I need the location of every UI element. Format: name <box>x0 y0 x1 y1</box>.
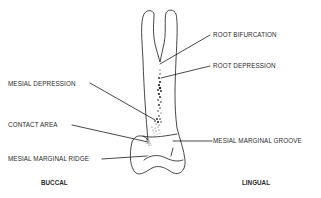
marginal-groove-mark <box>171 148 173 156</box>
cej-line <box>143 134 177 137</box>
label-buccal: BUCCAL <box>41 180 68 186</box>
tooth-illustration <box>0 0 321 198</box>
label-mesial-depression: MESIAL DEPRESSION <box>8 81 76 87</box>
label-contact-area: CONTACT AREA <box>8 122 58 128</box>
marginal-ridge-curve <box>144 156 183 162</box>
label-root-bifurcation: ROOT BIFURCATION <box>213 32 277 38</box>
stipple-contact-area <box>146 139 152 145</box>
label-mesial-marginal-ridge: MESIAL MARGINAL RIDGE <box>8 156 89 162</box>
label-mesial-marginal-groove: MESIAL MARGINAL GROOVE <box>213 138 302 144</box>
label-root-depression: ROOT DEPRESSION <box>213 63 276 69</box>
tooth-diagram: ROOT BIFURCATION ROOT DEPRESSION MESIAL … <box>0 0 321 198</box>
leader-contact-area <box>72 125 148 142</box>
leader-mesial-marginal-ridge <box>102 156 147 159</box>
leader-root-depression <box>161 66 210 78</box>
tooth-outline <box>130 10 185 174</box>
leader-root-bifurcation <box>160 35 210 64</box>
label-lingual: LINGUAL <box>242 180 270 186</box>
stipple-mesial-depression <box>152 127 161 137</box>
